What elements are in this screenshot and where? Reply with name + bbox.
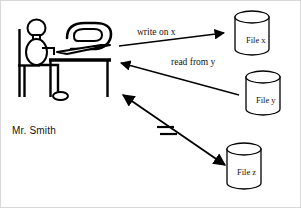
data-store-file-x [235,11,269,55]
actor-label-mr-smith: Mr. Smith [12,126,56,136]
computer-icon [57,23,111,54]
data-store-label-file-y: File y [256,96,276,105]
edge-label-write-on-x: write on x [137,28,176,38]
data-store-label-file-z: File z [237,168,256,177]
data-store-file-z [227,143,261,189]
edge-label-read-from-y: read from y [171,58,215,68]
cylinder-top-icon [235,11,269,23]
edge-read-from-y-line [121,63,239,95]
edge-access-z [123,95,225,165]
cylinder-top-icon [246,71,280,83]
edge-read-from-y [121,63,239,95]
edge-access-z-line [123,95,225,165]
actor-head-icon [28,20,46,37]
cylinder-top-icon [227,143,261,155]
actor-leg-icon [39,65,58,94]
data-store-label-file-x: File x [246,36,266,45]
actor-foot-icon [53,92,68,100]
actor-torso-icon [26,39,47,65]
data-store-file-y [246,71,280,115]
monitor-screen-icon [74,29,102,41]
diagram-canvas: write on x read from y File x File y Fil… [0,0,301,208]
